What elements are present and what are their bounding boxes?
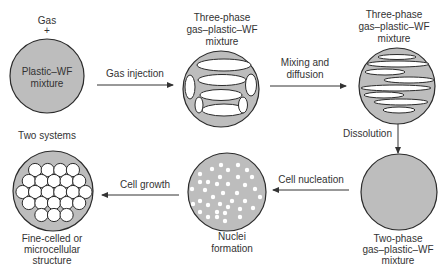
arrow-dissolution: Dissolution — [343, 124, 398, 153]
stage-3-top-label-3: mixture — [378, 33, 411, 44]
stage-1-bottom-label: Two systems — [18, 130, 76, 141]
stage-two-phase-mixture: Two-phase gas–plastic–WF mixture — [361, 154, 437, 266]
stage-3-top-label-1: Three-phase — [366, 9, 423, 20]
arrow-cell-nucleation: Cell nucleation — [273, 174, 349, 190]
stage-2-top-label-3: mixture — [206, 36, 239, 47]
stage-4-bottom-label-2: gas–plastic–WF — [362, 244, 433, 255]
arrow-cell-growth: Cell growth — [102, 179, 179, 195]
stage-plastic-wf-mixture: Gas + Plastic–WF mixture Two systems — [10, 15, 84, 141]
stage-1-inner-label-2: mixture — [31, 78, 64, 89]
stage-3-top-label-2: gas–plastic–WF — [358, 21, 429, 32]
nuclei-disc — [188, 153, 266, 231]
stage-1-inner-label-1: Plastic–WF — [22, 66, 73, 77]
stage-fine-celled-structure: Fine-celled or microcellular structure — [13, 151, 93, 266]
stage-6-bottom-label-2: microcellular — [24, 244, 81, 255]
stage-5-bottom-label-2: formation — [211, 243, 253, 254]
foaming-process-diagram: Gas + Plastic–WF mixture Two systems Gas… — [0, 0, 446, 273]
stage-three-phase-after-mixing: Three-phase gas–plastic–WF mixture — [358, 9, 435, 124]
arrow-2-label-2: diffusion — [286, 69, 323, 80]
stage-2-top-label-1: Three-phase — [194, 12, 251, 23]
stage-6-bottom-label-3: structure — [33, 255, 72, 266]
stage-4-bottom-label-3: mixture — [382, 255, 415, 266]
arrow-3-label: Dissolution — [343, 128, 392, 139]
arrow-mixing-and-diffusion: Mixing and diffusion — [270, 57, 346, 86]
stage-nuclei-formation: Nuclei formation — [188, 153, 266, 254]
arrow-1-label: Gas injection — [106, 68, 164, 79]
arrow-gas-injection: Gas injection — [97, 68, 173, 85]
stage-2-top-label-2: gas–plastic–WF — [186, 24, 257, 35]
arrow-5-label: Cell growth — [120, 179, 170, 190]
stage-three-phase-after-injection: Three-phase gas–plastic–WF mixture — [183, 12, 259, 127]
arrow-4-label: Cell nucleation — [278, 174, 344, 185]
stage-1-top-label-plus: + — [44, 25, 50, 36]
stage-5-bottom-label-1: Nuclei — [218, 231, 246, 242]
two-phase-disc — [361, 154, 437, 230]
stage-4-bottom-label-1: Two-phase — [374, 233, 423, 244]
arrow-2-label-1: Mixing and — [281, 57, 329, 68]
stage-6-bottom-label-1: Fine-celled or — [22, 233, 83, 244]
